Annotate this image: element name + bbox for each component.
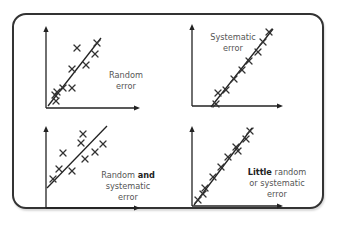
data-point-cross-icon [195,197,201,203]
panel-label: Systematicerror [210,32,256,53]
best-fit-line [47,126,107,188]
data-point-cross-icon [260,39,266,45]
data-point-cross-icon [53,98,59,104]
panel-label: Randomerror [109,70,143,91]
data-point-cross-icon [83,62,89,68]
x-axis-arrow-icon [277,103,283,108]
data-point-cross-icon [82,156,88,162]
x-axis-arrow-icon [134,105,140,110]
panel-random-error: Randomerror [43,26,143,111]
error-plots: RandomerrorSystematicerrorRandom andsyst… [0,0,339,227]
x-axis-arrow-icon [277,203,283,208]
data-point-cross-icon [94,40,100,46]
y-axis-arrow-icon [189,24,194,30]
error-types-diagram: RandomerrorSystematicerrorRandom andsyst… [0,0,339,227]
panel-label: Random andsystematicerror [101,170,155,202]
data-point-cross-icon [215,90,221,96]
data-point-cross-icon [69,66,75,72]
panel-random-and-systematic-error: Random andsystematicerror [43,126,155,211]
y-axis-arrow-icon [43,26,48,32]
data-point-cross-icon [255,49,261,55]
data-point-cross-icon [56,166,62,172]
data-point-cross-icon [200,191,206,197]
data-point-cross-icon [69,168,75,174]
y-axis-arrow-icon [43,126,48,132]
panel-little-error: Little randomor systematicerror [189,126,306,209]
data-point-cross-icon [100,141,106,147]
data-point-cross-icon [80,131,86,137]
panel-label: Little randomor systematicerror [248,167,307,199]
data-point-cross-icon [74,45,80,51]
data-point-cross-icon [92,149,98,155]
y-axis-arrow-icon [189,126,194,132]
data-point-cross-icon [60,150,66,156]
data-point-cross-icon [247,128,253,134]
panel-systematic-error: Systematicerror [189,24,283,109]
x-axis-arrow-icon [134,205,140,210]
data-point-cross-icon [92,51,98,57]
data-point-cross-icon [69,85,75,91]
data-point-cross-icon [78,140,84,146]
data-point-cross-icon [231,76,237,82]
